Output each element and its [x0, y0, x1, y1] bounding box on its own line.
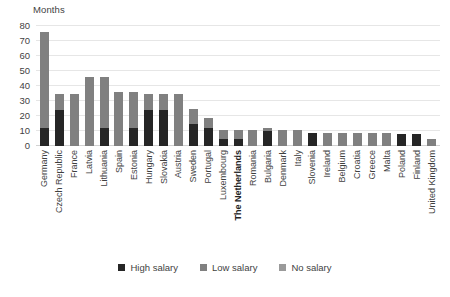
bar-segment [189, 109, 198, 124]
x-axis-tick-label: Belgium [338, 150, 347, 183]
bar-column[interactable] [111, 26, 126, 146]
bar-column[interactable] [394, 26, 409, 146]
y-axis-tick-label: 40 [19, 81, 30, 91]
stacked-bar[interactable] [144, 94, 153, 147]
bar-segment [174, 94, 183, 147]
bar-column[interactable] [350, 26, 365, 146]
stacked-bar[interactable] [85, 77, 94, 146]
bar-column[interactable] [231, 26, 246, 146]
stacked-bar[interactable] [308, 133, 317, 147]
stacked-bar[interactable] [40, 32, 49, 146]
bar-segment [397, 134, 406, 146]
x-axis-tick-label: Estonia [129, 150, 138, 180]
bar-column[interactable] [141, 26, 156, 146]
legend-label: Low salary [212, 262, 257, 273]
y-axis-tick-label: 0 [25, 141, 30, 151]
legend-swatch [200, 264, 207, 271]
bar-column[interactable] [201, 26, 216, 146]
bar-column[interactable] [290, 26, 305, 146]
bar-column[interactable] [216, 26, 231, 146]
bar-segment [189, 124, 198, 147]
bar-segment [70, 94, 79, 147]
x-label-slot: Portugal [201, 148, 216, 248]
bar-column[interactable] [67, 26, 82, 146]
x-axis-tick-label: Croatia [353, 150, 362, 179]
stacked-bar[interactable] [278, 130, 287, 147]
bar-column[interactable] [186, 26, 201, 146]
legend-item[interactable]: No salary [279, 262, 331, 273]
stacked-bar[interactable] [382, 133, 391, 147]
bar-column[interactable] [97, 26, 112, 146]
stacked-bar[interactable] [219, 130, 228, 147]
stacked-bar[interactable] [55, 94, 64, 147]
bar-column[interactable] [409, 26, 424, 146]
bar-column[interactable] [305, 26, 320, 146]
bar-column[interactable] [245, 26, 260, 146]
stacked-bar[interactable] [204, 118, 213, 147]
stacked-bar[interactable] [114, 92, 123, 146]
bar-column[interactable] [156, 26, 171, 146]
stacked-bar[interactable] [412, 134, 421, 146]
x-axis-tick-label: Bulgaria [263, 150, 272, 183]
bar-segment [100, 77, 109, 128]
stacked-bar[interactable] [174, 94, 183, 147]
x-axis-tick-label: Denmark [278, 150, 287, 187]
stacked-bar[interactable] [323, 133, 332, 147]
bar-column[interactable] [171, 26, 186, 146]
stacked-bar[interactable] [189, 109, 198, 147]
x-label-slot: Slovakia [156, 148, 171, 248]
bar-segment [144, 110, 153, 146]
bar-column[interactable] [82, 26, 97, 146]
bar-segment [159, 94, 168, 111]
stacked-bar[interactable] [234, 130, 243, 147]
x-label-slot: Austria [171, 148, 186, 248]
bar-column[interactable] [52, 26, 67, 146]
stacked-bar[interactable] [293, 130, 302, 147]
x-label-slot: Denmark [275, 148, 290, 248]
bar-segment [219, 130, 228, 139]
stacked-bar[interactable] [338, 133, 347, 147]
y-axis-tick-label: 10 [19, 126, 30, 136]
x-label-slot: Latvia [82, 148, 97, 248]
stacked-bar[interactable] [397, 134, 406, 146]
bar-segment [204, 118, 213, 129]
stacked-bar[interactable] [159, 94, 168, 147]
bar-column[interactable] [320, 26, 335, 146]
bar-column[interactable] [365, 26, 380, 146]
stacked-bar[interactable] [100, 77, 109, 146]
x-axis-tick-label: United Kingdom [427, 150, 436, 214]
x-axis-tick-label: Spain [114, 150, 123, 173]
y-axis-tick-label: 70 [19, 36, 30, 46]
stacked-bar[interactable] [263, 128, 272, 146]
bar-segment [159, 110, 168, 146]
y-axis-tick-label: 60 [19, 51, 30, 61]
bar-segment [353, 133, 362, 147]
bar-column[interactable] [260, 26, 275, 146]
x-label-slot: Ireland [320, 148, 335, 248]
stacked-bar[interactable] [248, 130, 257, 147]
x-label-slot: Romania [245, 148, 260, 248]
x-label-slot: Estonia [126, 148, 141, 248]
bar-segment [219, 139, 228, 147]
bar-segment [368, 133, 377, 147]
x-label-slot: Finland [409, 148, 424, 248]
x-axis-tick-label: Czech Republic [55, 150, 64, 213]
x-axis-tick-label: Germany [40, 150, 49, 187]
bar-column[interactable] [335, 26, 350, 146]
x-axis-labels: GermanyCzech RepublicFranceLatviaLithuan… [36, 148, 440, 248]
x-axis-tick-label: Luxembourg [219, 150, 228, 200]
legend-item[interactable]: Low salary [200, 262, 257, 273]
bar-column[interactable] [126, 26, 141, 146]
x-axis-tick-label: Italy [293, 150, 302, 167]
stacked-bar[interactable] [129, 92, 138, 146]
bar-segment [427, 139, 436, 147]
stacked-bar[interactable] [70, 94, 79, 147]
bar-column[interactable] [37, 26, 52, 146]
bar-column[interactable] [275, 26, 290, 146]
bar-column[interactable] [424, 26, 439, 146]
stacked-bar[interactable] [427, 139, 436, 147]
legend-item[interactable]: High salary [118, 262, 178, 273]
stacked-bar[interactable] [368, 133, 377, 147]
stacked-bar[interactable] [353, 133, 362, 147]
bar-column[interactable] [379, 26, 394, 146]
